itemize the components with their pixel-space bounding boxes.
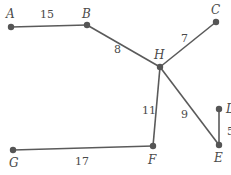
- edge-weight-H-E: 9: [181, 108, 188, 121]
- edge-G-F: [13, 146, 153, 150]
- node-D: [216, 106, 222, 112]
- edge-weight-B-H: 8: [114, 43, 121, 56]
- graph-diagram: A B C H D E F G 15 8 7 11 9 5 17: [0, 0, 231, 175]
- edge-weight-D-E: 5: [227, 125, 231, 138]
- node-F: [150, 143, 156, 149]
- node-label-C: C: [211, 3, 220, 17]
- node-B: [84, 22, 90, 28]
- node-E: [216, 142, 222, 148]
- edge-weight-H-C: 7: [181, 32, 188, 45]
- node-labels: A B C H D E F G: [5, 3, 231, 170]
- node-label-A: A: [5, 7, 15, 21]
- node-label-H: H: [153, 48, 165, 62]
- edge-weight-G-F: 17: [75, 155, 89, 168]
- node-label-F: F: [147, 153, 157, 167]
- node-C: [213, 19, 219, 25]
- nodes: [8, 19, 222, 153]
- edge-H-C: [160, 22, 216, 67]
- node-label-G: G: [9, 156, 19, 170]
- edge-A-B: [11, 25, 87, 27]
- edge-H-E: [160, 67, 219, 145]
- node-H: [157, 64, 163, 70]
- edge-weight-A-B: 15: [40, 8, 54, 21]
- node-A: [8, 24, 14, 30]
- edge-B-H: [87, 25, 160, 67]
- node-G: [10, 147, 16, 153]
- node-label-E: E: [213, 151, 223, 165]
- node-label-D: D: [225, 102, 231, 116]
- node-label-B: B: [81, 7, 91, 21]
- edge-weight-H-F: 11: [142, 104, 156, 117]
